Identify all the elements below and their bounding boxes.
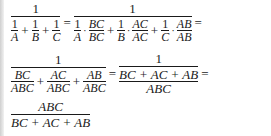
num: BC	[15, 69, 30, 81]
rhs-fraction: 1 BC + AC + ABABC	[119, 52, 198, 95]
result-fraction: ABC BC + AC + AB	[11, 100, 90, 129]
num: AB	[177, 18, 192, 30]
left-edge-shadow	[0, 0, 4, 136]
num: 1	[12, 18, 18, 30]
term: BCBC	[89, 18, 104, 43]
numerator: 1	[55, 53, 62, 66]
den: ABC	[11, 82, 34, 94]
term: ABABC	[83, 69, 106, 94]
den: B	[117, 31, 124, 43]
term: 1A	[11, 18, 18, 43]
num: 1	[32, 18, 38, 30]
denominator: BCABC + ACABC + ABABC	[11, 69, 106, 94]
rhs-fraction: 1 1A · BCBC + 1B · ACAC + 1C · ABAB	[74, 2, 192, 43]
dot: ·	[127, 25, 131, 36]
equation-line-1: 1 1A + 1B + 1C = 1 1A · BCBC + 1B · ACAC…	[11, 2, 205, 43]
numerator: 1	[129, 2, 136, 15]
den: AB	[177, 31, 192, 43]
dot: ·	[171, 25, 175, 36]
num: 1	[53, 18, 59, 30]
term: 1B	[32, 18, 39, 43]
equals: =	[195, 15, 202, 31]
num: AB	[87, 69, 102, 81]
equals: =	[201, 66, 208, 82]
term: ABAB	[177, 18, 192, 43]
denominator: BC + AC + AB	[11, 116, 90, 129]
term: BCABC	[11, 69, 34, 94]
denominator: 1A · BCBC + 1B · ACAC + 1C · ABAB	[74, 18, 192, 43]
num: AC	[132, 18, 147, 30]
den: C	[52, 31, 60, 43]
plus: +	[37, 75, 44, 88]
num: BC + AC + AB	[119, 68, 198, 81]
equation-line-3: ABC BC + AC + AB	[11, 100, 90, 129]
plus: +	[21, 24, 28, 37]
term: BC + AC + ABABC	[119, 68, 198, 95]
plus: +	[73, 75, 80, 88]
term: 1B	[117, 18, 124, 43]
den: AC	[132, 31, 147, 43]
numerator: 1	[32, 2, 39, 15]
lhs-fraction: 1 1A + 1B + 1C	[11, 2, 60, 43]
den: BC	[89, 31, 104, 43]
equals: =	[63, 15, 70, 31]
num: 1	[74, 18, 80, 30]
numerator: ABC	[38, 100, 63, 113]
num: 1	[118, 18, 124, 30]
numerator: 1	[155, 52, 162, 65]
lhs-fraction: 1 BCABC + ACABC + ABABC	[11, 53, 106, 94]
den: B	[32, 31, 39, 43]
plus: +	[107, 24, 114, 37]
den: ABC	[83, 82, 106, 94]
den: A	[11, 31, 18, 43]
den: C	[161, 31, 169, 43]
equals: =	[109, 66, 116, 82]
dot: ·	[83, 25, 87, 36]
term: 1A	[74, 18, 81, 43]
term: 1C	[161, 18, 169, 43]
denominator: 1A + 1B + 1C	[11, 18, 60, 43]
den: ABC	[146, 82, 171, 95]
den: ABC	[47, 82, 70, 94]
term: ACAC	[132, 18, 147, 43]
plus: +	[151, 24, 158, 37]
num: 1	[162, 18, 168, 30]
equation-line-2: 1 BCABC + ACABC + ABABC = 1 BC + AC + AB…	[11, 52, 212, 95]
denominator: BC + AC + ABABC	[119, 68, 198, 95]
num: BC	[89, 18, 104, 30]
term: 1C	[52, 18, 60, 43]
plus: +	[42, 24, 49, 37]
den: A	[74, 31, 81, 43]
term: ACABC	[47, 69, 70, 94]
num: AC	[51, 69, 66, 81]
